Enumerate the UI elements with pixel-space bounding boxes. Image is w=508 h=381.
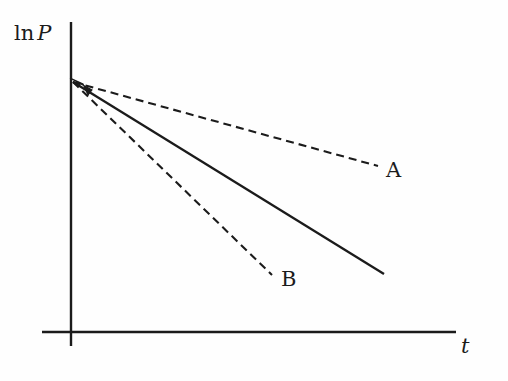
series-line-b <box>73 82 272 275</box>
series-label-b: B <box>281 269 296 290</box>
y-axis-label: lnP <box>14 23 51 44</box>
figure-container: lnP t A B <box>0 0 508 381</box>
x-axis-label: t <box>461 336 469 357</box>
plot-canvas <box>0 0 508 381</box>
series-line-a <box>73 82 378 166</box>
series-label-a: A <box>386 160 401 181</box>
y-axis-label-variable: P <box>37 21 51 45</box>
series-line-reference <box>73 82 384 274</box>
y-axis-label-roman: ln <box>14 21 34 45</box>
